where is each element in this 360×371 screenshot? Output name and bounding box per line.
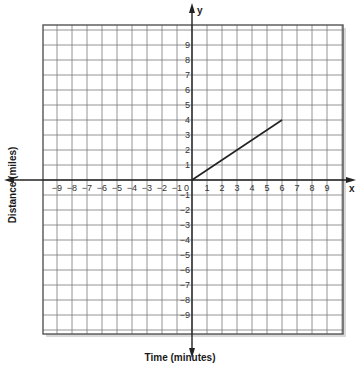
svg-text:−4: −4 (127, 183, 137, 193)
x-axis-title: Time (minutes) (0, 352, 360, 363)
svg-text:8: 8 (309, 183, 314, 193)
svg-text:6: 6 (185, 85, 190, 95)
coordinate-grid-chart: yx −9−8−7−6−5−4−3−2−1123456789−9−8−7−6−5… (0, 0, 360, 371)
svg-text:−8: −8 (180, 295, 190, 305)
svg-text:8: 8 (185, 55, 190, 65)
svg-text:6: 6 (279, 183, 284, 193)
svg-text:3: 3 (185, 130, 190, 140)
svg-text:−2: −2 (157, 183, 167, 193)
svg-text:1: 1 (204, 183, 209, 193)
svg-text:−7: −7 (180, 280, 190, 290)
svg-text:−4: −4 (180, 235, 190, 245)
svg-text:−7: −7 (82, 183, 92, 193)
svg-text:3: 3 (234, 183, 239, 193)
svg-text:5: 5 (264, 183, 269, 193)
svg-text:−8: −8 (67, 183, 77, 193)
svg-text:−9: −9 (52, 183, 62, 193)
svg-text:0: 0 (184, 183, 189, 193)
svg-text:−6: −6 (180, 265, 190, 275)
y-axis-title-container: Distance (miles) (2, 130, 22, 240)
svg-text:−3: −3 (180, 220, 190, 230)
svg-text:−6: −6 (97, 183, 107, 193)
svg-text:4: 4 (185, 115, 190, 125)
svg-text:−5: −5 (180, 250, 190, 260)
svg-text:9: 9 (185, 40, 190, 50)
svg-text:7: 7 (294, 183, 299, 193)
svg-text:−5: −5 (112, 183, 122, 193)
svg-text:x: x (349, 183, 355, 194)
svg-text:2: 2 (185, 145, 190, 155)
svg-text:7: 7 (185, 70, 190, 80)
svg-text:5: 5 (185, 100, 190, 110)
svg-text:−3: −3 (142, 183, 152, 193)
svg-text:−9: −9 (180, 310, 190, 320)
svg-text:−2: −2 (180, 205, 190, 215)
svg-text:1: 1 (185, 160, 190, 170)
grid-shadow (43, 25, 346, 337)
svg-text:9: 9 (324, 183, 329, 193)
svg-text:y: y (197, 5, 203, 16)
svg-text:4: 4 (249, 183, 254, 193)
y-axis-title: Distance (miles) (7, 147, 18, 224)
svg-text:2: 2 (219, 183, 224, 193)
